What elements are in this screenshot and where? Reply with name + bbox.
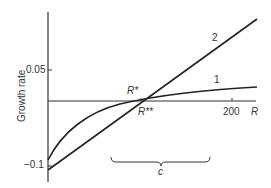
y-axis-label: Growth rate [16,70,27,122]
r-star-label: R* [127,86,138,96]
ytick-label-low: −0.1 [24,160,44,170]
curve-2-label: 2 [212,33,218,43]
r-star-star-label: R** [138,107,153,117]
series-2-line [48,19,257,170]
series-1-curve [48,87,257,160]
curve-1-label: 1 [214,75,220,85]
x-axis-label: R [251,107,258,117]
xtick-label-200: 200 [223,107,240,117]
c-brace [111,157,210,166]
ytick-label-high: 0.05 [26,65,45,75]
brace-label-c: c [158,167,163,177]
